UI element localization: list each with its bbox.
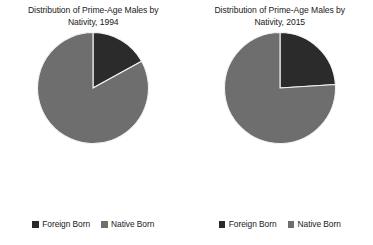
legend-swatch-native-born-icon <box>101 221 108 228</box>
legend-2015: Foreign Born Native Born <box>187 220 373 229</box>
legend-swatch-foreign-born-icon <box>32 221 39 228</box>
legend-item-foreign-born-1994[interactable]: Foreign Born <box>32 220 90 229</box>
chart-title-2015-line1: Distribution of Prime-Age Males by <box>214 5 345 15</box>
chart-title-1994: Distribution of Prime-Age Males by Nativ… <box>5 5 181 28</box>
pie-slice-foreign-born[interactable] <box>280 33 335 89</box>
chart-title-2015: Distribution of Prime-Age Males by Nativ… <box>192 5 368 28</box>
pie-svg-1994 <box>37 32 149 144</box>
legend-label-native-born: Native Born <box>111 220 154 229</box>
chart-title-2015-line2: Nativity, 2015 <box>254 17 305 27</box>
pie-slices-2015 <box>224 33 335 144</box>
legend-label-foreign-born: Foreign Born <box>42 220 90 229</box>
legend-1994: Foreign Born Native Born <box>0 220 187 229</box>
chart-title-1994-line2: Nativity, 1994 <box>68 17 119 27</box>
legend-item-native-born-1994[interactable]: Native Born <box>101 220 154 229</box>
legend-label-native-born: Native Born <box>298 220 341 229</box>
chart-title-1994-line1: Distribution of Prime-Age Males by <box>28 5 159 15</box>
legend-label-foreign-born: Foreign Born <box>229 220 277 229</box>
chart-panel-1994: Distribution of Prime-Age Males by Nativ… <box>0 0 187 245</box>
pie-charts-container: Distribution of Prime-Age Males by Nativ… <box>0 0 373 245</box>
legend-swatch-native-born-icon <box>288 221 295 228</box>
chart-panel-2015: Distribution of Prime-Age Males by Nativ… <box>187 0 373 245</box>
legend-swatch-foreign-born-icon <box>219 221 226 228</box>
pie-chart-2015 <box>224 32 336 144</box>
pie-svg-2015 <box>224 32 336 144</box>
pie-chart-1994 <box>37 32 149 144</box>
pie-slices-1994 <box>38 33 149 144</box>
legend-item-foreign-born-2015[interactable]: Foreign Born <box>219 220 277 229</box>
legend-item-native-born-2015[interactable]: Native Born <box>288 220 341 229</box>
